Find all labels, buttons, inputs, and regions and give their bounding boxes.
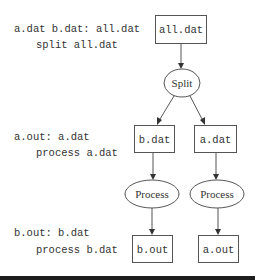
node-a-dat-label: a.dat	[200, 134, 232, 146]
arrowhead-icon	[215, 229, 221, 235]
arrowhead-icon	[157, 117, 162, 125]
rule-a-out: a.out: a.dat process a.dat	[14, 131, 118, 159]
rule-split-command: split all.dat	[36, 39, 118, 51]
arrowhead-icon	[178, 63, 184, 69]
node-process-a-label: Process	[200, 188, 234, 200]
rule-b-out: b.out: b.dat process b.dat	[14, 227, 118, 256]
rule-split-target: a.dat b.dat: all.dat	[14, 23, 140, 35]
node-b-dat: b.dat	[135, 126, 175, 153]
arrowhead-icon	[200, 117, 205, 125]
node-b-dat-label: b.dat	[139, 134, 171, 146]
node-split: Split	[164, 69, 200, 97]
arrowhead-icon	[213, 174, 219, 180]
edge-split-to-b	[160, 96, 174, 119]
edge-split-to-a	[190, 96, 202, 119]
node-all-dat: all.dat	[156, 16, 207, 44]
rule-a-out-command: process a.dat	[36, 147, 118, 159]
node-all-dat-label: all.dat	[159, 24, 203, 36]
rule-b-out-command: process b.dat	[36, 244, 118, 256]
node-process-a: Process	[190, 180, 244, 208]
node-process-b-label: Process	[135, 188, 169, 200]
node-a-out: a.out	[199, 236, 239, 263]
dependency-diagram: a.dat b.dat: all.dat split all.dat a.out…	[0, 0, 255, 280]
arrowhead-icon	[149, 229, 155, 235]
bottom-border-bar	[0, 276, 255, 280]
node-process-b: Process	[125, 180, 179, 208]
node-split-label: Split	[172, 77, 193, 89]
rule-a-out-target: a.out: a.dat	[14, 131, 90, 143]
node-b-out-label: b.out	[137, 244, 169, 256]
arrowhead-icon	[150, 174, 156, 180]
rule-b-out-target: b.out: b.dat	[14, 227, 90, 239]
rule-split: a.dat b.dat: all.dat split all.dat	[14, 23, 140, 51]
node-b-out: b.out	[133, 236, 173, 263]
node-a-out-label: a.out	[203, 244, 235, 256]
node-a-dat: a.dat	[195, 126, 237, 153]
